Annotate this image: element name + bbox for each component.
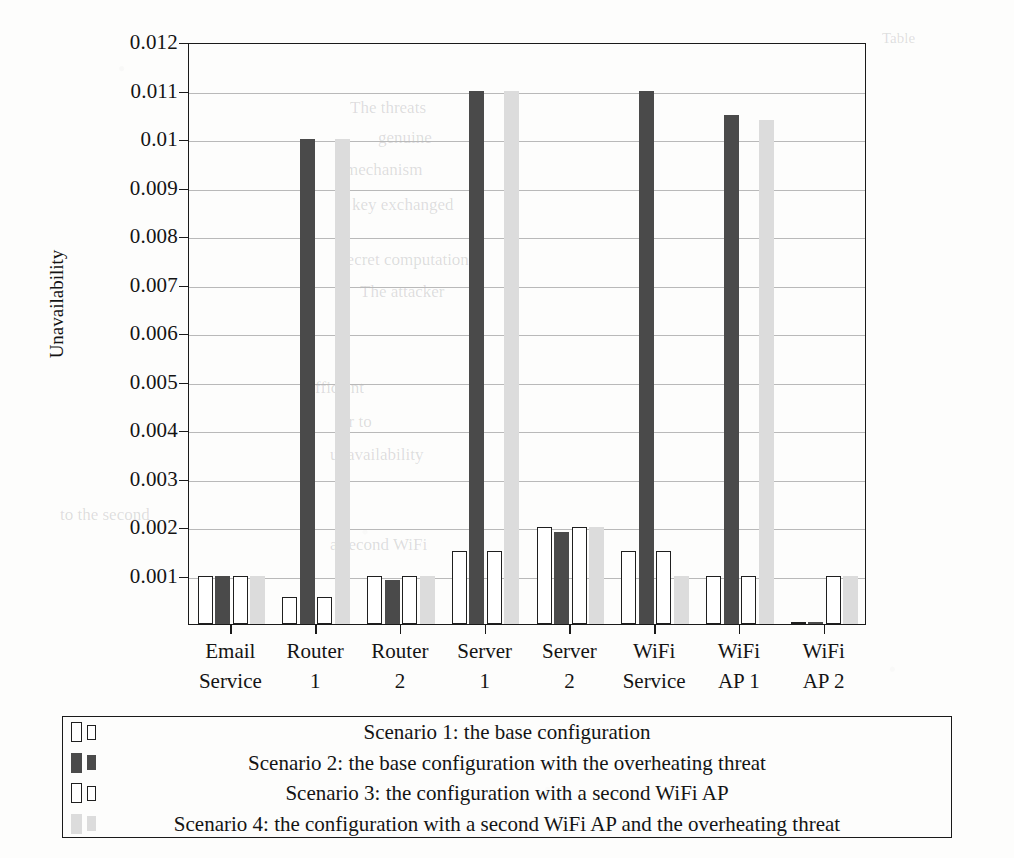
y-tick-label: 0.001 — [130, 566, 178, 587]
y-tick-label: 0.009 — [130, 178, 178, 199]
bar — [300, 139, 315, 624]
y-tick-mark — [179, 237, 188, 238]
x-axis-tick-labels: EmailServiceRouter1Router2Server1Server2… — [188, 636, 866, 706]
y-tick-mark — [179, 189, 188, 190]
bar-group — [282, 44, 350, 624]
x-tick-label-line1: WiFi — [633, 639, 675, 663]
bar — [504, 91, 519, 625]
bar — [639, 91, 654, 625]
bar-group — [452, 44, 520, 624]
x-tick-label-line2: 1 — [273, 666, 358, 696]
x-tick-label-line2: AP 1 — [697, 666, 782, 696]
x-tick-label: EmailService — [188, 636, 273, 696]
y-tick-label: 0.011 — [131, 81, 178, 102]
bar — [233, 576, 248, 625]
bar — [791, 622, 806, 624]
y-tick-label: 0.008 — [130, 226, 178, 247]
bar-group — [367, 44, 435, 624]
y-axis-label: Unavailability — [46, 204, 68, 404]
legend-swatch-short — [87, 816, 96, 831]
y-tick-label: 0.003 — [130, 469, 178, 490]
y-tick-mark — [179, 286, 188, 287]
x-tick-mark — [230, 625, 231, 634]
bar — [367, 576, 382, 625]
x-tick-label-line1: Router — [371, 639, 428, 663]
bar-group — [791, 44, 859, 624]
x-axis-tick-marks — [188, 625, 866, 635]
x-tick-label: Server1 — [442, 636, 527, 696]
x-tick-label-line2: 2 — [358, 666, 443, 696]
bar — [554, 532, 569, 624]
x-tick-label-line2: 1 — [442, 666, 527, 696]
x-tick-label-line1: WiFi — [718, 639, 760, 663]
y-tick-label: 0.006 — [130, 323, 178, 344]
bar — [385, 580, 400, 624]
y-tick-mark — [179, 334, 188, 335]
bar — [759, 120, 774, 624]
bar — [487, 551, 502, 624]
legend-swatch-short — [87, 786, 96, 801]
x-tick-label-line2: Service — [188, 666, 273, 696]
bar — [724, 115, 739, 624]
y-tick-mark — [179, 480, 188, 481]
bar — [808, 622, 823, 624]
bar — [452, 551, 467, 624]
x-tick-mark — [824, 625, 825, 634]
x-tick-label-line1: WiFi — [802, 639, 844, 663]
legend: Scenario 1: the base configurationScenar… — [62, 716, 952, 838]
x-tick-mark — [400, 625, 401, 634]
legend-swatch — [71, 717, 117, 748]
x-tick-label-line1: Server — [457, 639, 512, 663]
bar — [674, 576, 689, 625]
legend-row: Scenario 2: the base configuration with … — [63, 748, 951, 779]
bar-group — [198, 44, 266, 624]
bar — [317, 597, 332, 624]
legend-swatch-short — [87, 755, 96, 770]
bar — [402, 576, 417, 625]
x-tick-label-line2: AP 2 — [781, 666, 866, 696]
x-tick-label-line2: Service — [612, 666, 697, 696]
bar — [537, 527, 552, 624]
legend-swatch-tall — [71, 814, 82, 834]
legend-label: Scenario 3: the configuration with a sec… — [63, 778, 951, 808]
legend-swatch-tall — [71, 753, 82, 773]
y-tick-mark — [179, 431, 188, 432]
bar — [335, 139, 350, 624]
y-tick-mark — [179, 528, 188, 529]
bars-layer — [189, 44, 865, 624]
bar — [741, 576, 756, 625]
x-tick-mark — [315, 625, 316, 634]
legend-label: Scenario 4: the configuration with a sec… — [63, 809, 951, 839]
x-tick-label-line2: 2 — [527, 666, 612, 696]
y-tick-label: 0.012 — [130, 32, 178, 53]
y-tick-mark — [179, 92, 188, 93]
bar — [656, 551, 671, 624]
x-tick-mark — [654, 625, 655, 634]
legend-swatch — [71, 809, 117, 840]
x-tick-label: Router1 — [273, 636, 358, 696]
x-tick-label: Router2 — [358, 636, 443, 696]
plot-area — [188, 43, 866, 625]
legend-swatch-tall — [71, 722, 82, 742]
y-tick-label: 0.002 — [130, 517, 178, 538]
bar — [282, 597, 297, 624]
bar — [589, 527, 604, 624]
y-tick-mark — [179, 43, 188, 44]
y-tick-label: 0.004 — [130, 420, 178, 441]
legend-row: Scenario 4: the configuration with a sec… — [63, 809, 951, 840]
bar — [621, 551, 636, 624]
unavailability-bar-chart: Unavailability 0.0010.0020.0030.0040.005… — [0, 0, 1014, 858]
x-tick-mark — [569, 625, 570, 634]
bar-group — [706, 44, 774, 624]
x-tick-label-line1: Router — [287, 639, 344, 663]
legend-swatch-short — [87, 725, 96, 740]
bar — [215, 576, 230, 625]
legend-swatch-tall — [71, 783, 82, 803]
legend-row: Scenario 3: the configuration with a sec… — [63, 778, 951, 809]
x-tick-label: WiFiAP 2 — [781, 636, 866, 696]
x-tick-label-line1: Email — [205, 639, 255, 663]
bar-group — [621, 44, 689, 624]
legend-swatch — [71, 748, 117, 779]
y-tick-label: 0.01 — [140, 129, 178, 150]
x-tick-label: WiFiService — [612, 636, 697, 696]
